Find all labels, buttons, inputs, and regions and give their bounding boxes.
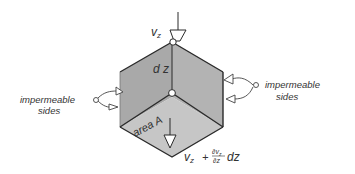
inflow-arrow-icon xyxy=(170,12,186,41)
right-sides-label-line1: impermeable xyxy=(265,79,320,90)
center-vertex-node xyxy=(169,90,176,97)
height-label: d z xyxy=(153,62,169,76)
left-sides-label-line1: impermeable xyxy=(20,94,75,105)
left-sides-label-line2: sides xyxy=(38,105,60,116)
svg-text:∂vz: ∂vz xyxy=(212,148,222,157)
svg-text:vz: vz xyxy=(184,150,194,165)
right-sides-label-line2: sides xyxy=(276,91,298,102)
svg-text:dz: dz xyxy=(227,150,240,164)
left-impermeable-pointer-icon xyxy=(94,87,124,110)
top-flux-label: vz xyxy=(151,25,161,40)
right-impermeable-pointer-icon xyxy=(224,74,259,103)
svg-text:+: + xyxy=(202,151,209,163)
top-vertex-node xyxy=(170,39,176,45)
control-volume-diagram: vz d z area A impermeable sides impermea… xyxy=(0,0,355,174)
svg-text:∂z: ∂z xyxy=(213,157,220,164)
bottom-flux-expression: vz + ∂vz ∂z dz xyxy=(184,148,240,165)
